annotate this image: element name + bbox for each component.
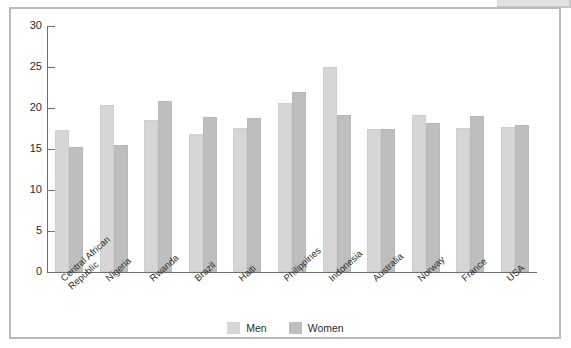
bar-women-rwanda [158,101,172,272]
bar-men-haiti [233,128,247,272]
bars-layer [0,0,571,348]
bar-men-rwanda [144,120,158,272]
legend-item-men[interactable]: Men [227,322,266,334]
bar-women-australia [381,129,395,272]
bar-women-usa [515,125,529,272]
bar-men-indonesia [323,67,337,272]
legend-swatch-icon [227,322,240,334]
bar-men-usa [501,127,515,272]
bar-women-philippines [292,92,306,272]
legend-swatch-icon [289,322,302,334]
bar-men-brazil [189,134,203,272]
bar-men-france [456,128,470,272]
bar-women-france [470,116,484,272]
bar-women-norway [426,123,440,272]
bar-men-central-african-republic [55,130,69,272]
chart-legend: MenWomen [0,322,571,334]
legend-label: Men [246,322,266,334]
bar-women-haiti [247,118,261,272]
bar-men-philippines [278,103,292,272]
legend-item-women[interactable]: Women [289,322,344,334]
bar-women-indonesia [337,115,351,272]
bar-men-australia [367,129,381,273]
bar-women-brazil [203,117,217,272]
chart-screenshot: 051015202530 Central AfricanRepublicNige… [0,0,571,348]
legend-label: Women [308,322,344,334]
bar-men-norway [412,115,426,272]
